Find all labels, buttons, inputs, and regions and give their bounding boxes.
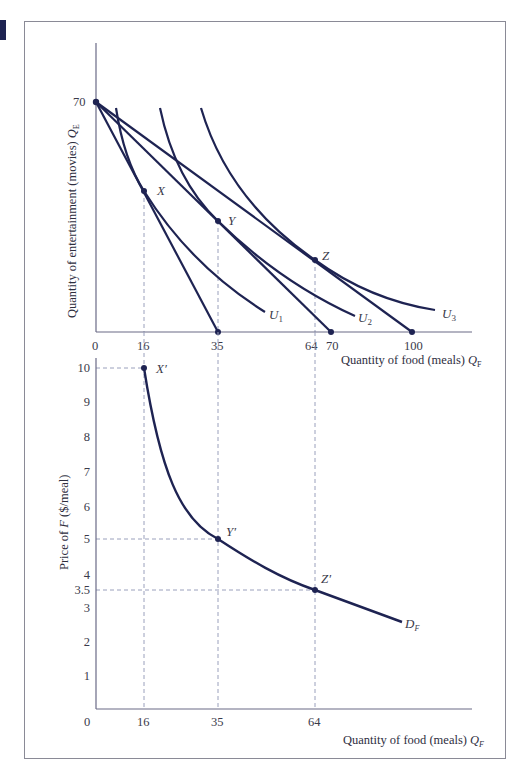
top-chart: X Y Z U1 U2 U3 70 0 16 35 64 70 100 Quan… xyxy=(65,43,482,369)
bottom-guide-lines xyxy=(96,332,315,709)
point-intercept-100 xyxy=(409,329,415,335)
label-u1: U1 xyxy=(269,307,283,324)
point-z xyxy=(312,257,318,263)
top-xtick-100: 100 xyxy=(404,339,423,353)
ytick-10: 10 xyxy=(78,361,91,375)
label-u2: U2 xyxy=(358,310,372,327)
top-x-axis-label: Quantity of food (meals) QF xyxy=(341,353,482,369)
ytick-4: 4 xyxy=(84,568,91,582)
point-intercept-70 xyxy=(328,329,334,335)
top-xtick-64: 64 xyxy=(305,339,318,353)
curve-u2 xyxy=(160,108,355,316)
point-y xyxy=(215,218,221,224)
top-xtick-16: 16 xyxy=(137,339,150,353)
bottom-points xyxy=(141,365,318,593)
ytick-6: 6 xyxy=(84,500,90,514)
ytick-8: 8 xyxy=(84,430,90,444)
point-x xyxy=(141,188,147,194)
ytick-70: 70 xyxy=(73,95,86,109)
curve-u3 xyxy=(201,108,435,310)
ytick-3-5: 3.5 xyxy=(74,583,90,597)
ytick-3: 3 xyxy=(84,601,90,615)
demand-curve xyxy=(144,368,402,622)
bottom-chart: X′ Y′ Z′ DF 10 9 8 7 6 5 4 3.5 3 2 1 0 1… xyxy=(57,332,484,749)
top-xtick-35: 35 xyxy=(211,339,224,353)
point-y-prime xyxy=(215,536,221,542)
bottom-xtick-35: 35 xyxy=(211,715,224,729)
top-xtick-70: 70 xyxy=(326,339,339,353)
top-y-axis-label: Quantity of entertainment (movies) QE xyxy=(65,124,81,318)
bottom-xtick-64: 64 xyxy=(308,715,321,729)
label-demand: DF xyxy=(404,616,419,633)
point-x-prime xyxy=(141,365,147,371)
bottom-xtick-16: 16 xyxy=(137,715,150,729)
label-z-prime: Z′ xyxy=(321,571,331,586)
ytick-2: 2 xyxy=(84,635,90,649)
bottom-y-ticks: 10 9 8 7 6 5 4 3.5 3 2 1 xyxy=(74,361,90,683)
ytick-1: 1 xyxy=(84,669,90,683)
bottom-y-axis-label: Price of F ($/meal) xyxy=(57,475,71,570)
budget-line-3 xyxy=(96,102,412,332)
label-u3: U3 xyxy=(442,306,456,323)
label-z: Z xyxy=(322,248,330,263)
ytick-7: 7 xyxy=(84,465,90,479)
point-z-prime xyxy=(312,587,318,593)
label-x-prime: X′ xyxy=(155,361,167,376)
bottom-x-axis-label: Quantity of food (meals) QF xyxy=(343,733,484,749)
top-origin: 0 xyxy=(92,339,98,353)
label-y: Y xyxy=(228,213,237,228)
ytick-9: 9 xyxy=(84,395,90,409)
point-70 xyxy=(93,99,99,105)
indifference-curves xyxy=(116,108,435,316)
budget-lines xyxy=(96,102,412,332)
bottom-origin: 0 xyxy=(84,715,90,729)
label-x: X xyxy=(156,183,166,198)
label-y-prime: Y′ xyxy=(226,524,236,539)
budget-line-1 xyxy=(96,102,218,332)
figure-svg: X Y Z U1 U2 U3 70 0 16 35 64 70 100 Quan… xyxy=(0,0,531,784)
ytick-5: 5 xyxy=(84,532,90,546)
